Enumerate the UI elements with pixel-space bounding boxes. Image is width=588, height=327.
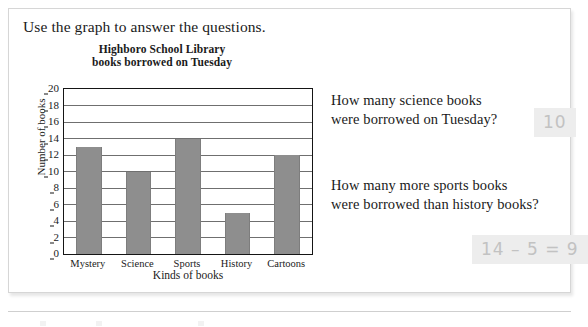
question-1-line-1: How many science books: [331, 91, 497, 110]
question-1-line-2: were borrowed on Tuesday?: [331, 110, 497, 129]
gridline: [64, 122, 312, 123]
answer-field-1[interactable]: 10: [534, 108, 576, 137]
bar-sports: [175, 139, 201, 255]
y-axis-tick-label: 16: [48, 116, 59, 127]
question-2-line-2: were borrowed than history books?: [331, 195, 539, 214]
plot-area: [63, 88, 313, 255]
y-axis-tick-mark: [50, 209, 54, 210]
question-2: How many more sports books were borrowed…: [331, 176, 539, 214]
gridline: [64, 105, 312, 106]
y-axis-tick-mark: [50, 242, 54, 243]
y-axis-tick-mark: [50, 259, 54, 260]
chart-title: Highboro School Library books borrowed o…: [17, 43, 307, 69]
x-axis-title: Kinds of books: [63, 269, 313, 281]
faint-mark: [40, 321, 46, 326]
y-axis-title: Number of books: [35, 67, 47, 207]
y-axis-tick-label: 12: [48, 149, 59, 160]
y-axis-tick-mark: [44, 160, 48, 161]
y-axis-tick-label: 4: [54, 215, 60, 226]
y-axis-tick-mark: [44, 94, 48, 95]
answer-field-2[interactable]: 14 – 5 = 9: [472, 235, 588, 264]
y-axis-tick-mark: [50, 193, 54, 194]
y-axis-tick-label: 20: [48, 83, 59, 94]
bar-cartoons: [274, 155, 300, 254]
bar-chart: Highboro School Library books borrowed o…: [17, 43, 322, 283]
y-axis-tick-label: 6: [54, 198, 60, 209]
bar-science: [126, 172, 152, 255]
question-1: How many science books were borrowed on …: [331, 91, 497, 129]
y-axis-tick-label: 18: [48, 99, 59, 110]
question-2-line-1: How many more sports books: [331, 176, 539, 195]
y-axis-tick-mark: [44, 176, 48, 177]
chart-title-line-2: books borrowed on Tuesday: [17, 56, 307, 69]
y-axis-tick-label: 10: [48, 165, 59, 176]
faint-mark: [198, 321, 204, 326]
y-axis-tick-label: 0: [54, 248, 60, 259]
y-axis-tick-label: 14: [48, 132, 59, 143]
y-axis-tick-mark: [44, 110, 48, 111]
y-axis-tick-label: 8: [54, 182, 60, 193]
bar-history: [225, 213, 251, 254]
instruction-text: Use the graph to answer the questions.: [23, 18, 266, 36]
faint-mark: [96, 321, 102, 326]
plot-wrap: 02468101214161820 MysteryScienceSportsHi…: [63, 88, 313, 255]
y-axis-tick-mark: [50, 226, 54, 227]
y-axis-tick-label: 2: [54, 231, 60, 242]
lower-panel: [8, 311, 571, 327]
bar-mystery: [76, 147, 102, 254]
chart-title-line-1: Highboro School Library: [17, 43, 307, 56]
worksheet-panel: Use the graph to answer the questions. H…: [8, 8, 571, 293]
y-axis-tick-mark: [44, 143, 48, 144]
y-axis-tick-mark: [44, 127, 48, 128]
